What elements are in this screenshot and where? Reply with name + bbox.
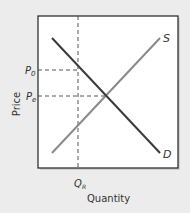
diagram-canvas: S D P0 Pe Price QR Quantity bbox=[0, 0, 190, 213]
quantity-axis-title: Quantity bbox=[87, 193, 130, 204]
supply-label: S bbox=[163, 32, 170, 45]
pe-label: Pe bbox=[26, 91, 36, 104]
p0-label: P0 bbox=[25, 65, 36, 78]
supply-demand-figure: S D P0 Pe Price QR Quantity bbox=[0, 0, 190, 213]
price-axis-title: Price bbox=[11, 92, 22, 116]
qr-label: QR bbox=[74, 178, 86, 190]
demand-label: D bbox=[163, 148, 171, 161]
